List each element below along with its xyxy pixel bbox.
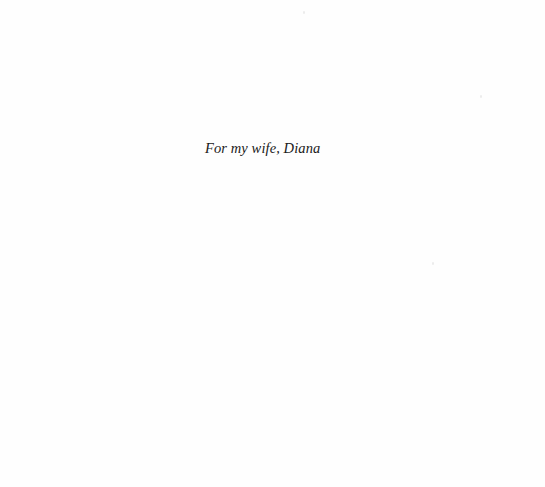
- scan-speck: [303, 11, 305, 14]
- dedication-text: For my wife, Diana: [205, 140, 320, 157]
- scan-speck: [432, 262, 434, 265]
- scan-speck: [480, 95, 482, 98]
- book-page: For my wife, Diana: [0, 0, 545, 487]
